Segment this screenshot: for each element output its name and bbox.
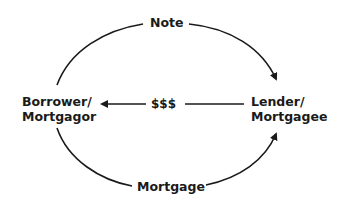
lender-line1: Lender/ — [251, 94, 327, 109]
money-label: $$$ — [151, 97, 176, 111]
note-arrow — [57, 24, 143, 85]
borrower-line1: Borrower/ — [22, 94, 96, 109]
note-arrow-right — [189, 24, 276, 79]
mortgage-arrow-left — [57, 128, 132, 186]
borrower-node: Borrower/ Mortgagor — [22, 94, 96, 124]
lender-node: Lender/ Mortgagee — [251, 94, 327, 124]
mortgage-label: Mortgage — [137, 180, 205, 194]
mortgage-arrow-right — [206, 134, 276, 185]
note-label: Note — [150, 16, 184, 30]
borrower-line2: Mortgagor — [22, 109, 96, 124]
lender-line2: Mortgagee — [251, 109, 327, 124]
